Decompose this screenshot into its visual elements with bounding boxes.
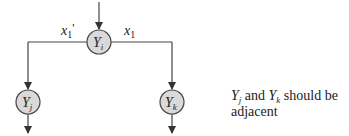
note-yk: Yk — [269, 88, 281, 103]
diagram-canvas: Yi Yj Yk x1' x1 Yj and Yk should be adja… — [0, 0, 349, 136]
node-yj: Yj — [16, 90, 40, 114]
node-yk: Yk — [160, 90, 184, 114]
edge-label-x1-prime: x1' — [60, 21, 74, 40]
note-line2: adjacent — [231, 104, 278, 119]
adjacency-note: Yj and Yk should be adjacent — [231, 88, 349, 120]
note-yj: Yj — [231, 88, 241, 103]
edge-label-x1: x1 — [123, 23, 135, 40]
node-yi: Yi — [87, 30, 111, 54]
